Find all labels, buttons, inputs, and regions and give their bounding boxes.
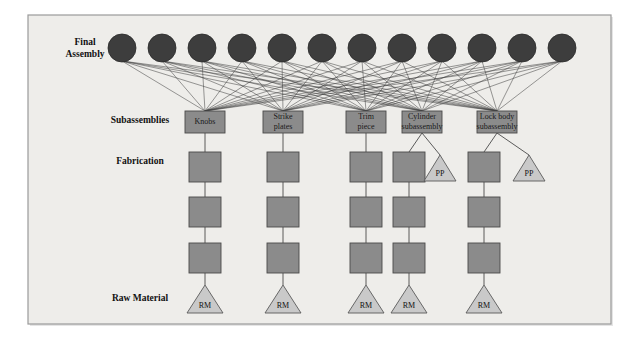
- subassembly-label: Cylinder: [408, 112, 436, 121]
- final-assembly-node[interactable]: [388, 34, 416, 62]
- final-assembly-node[interactable]: [428, 34, 456, 62]
- fabrication-node[interactable]: [189, 243, 221, 273]
- row-label-final-assembly: Final: [74, 37, 95, 47]
- fabrication-node[interactable]: [468, 152, 500, 182]
- fabrication-node[interactable]: [267, 197, 299, 227]
- subassembly-label: Trim: [358, 112, 374, 121]
- fabrication-node[interactable]: [267, 243, 299, 273]
- subassembly-label: subassembly: [477, 122, 518, 131]
- subassembly-label: Strike: [273, 112, 293, 121]
- final-assembly-node[interactable]: [188, 34, 216, 62]
- fabrication-node[interactable]: [189, 197, 221, 227]
- row-label-subassemblies: Subassemblies: [111, 115, 170, 125]
- purchased-part-label: PP: [436, 169, 445, 178]
- fabrication-node[interactable]: [350, 152, 382, 182]
- final-assembly-node[interactable]: [468, 34, 496, 62]
- purchased-part-label: PP: [525, 169, 534, 178]
- raw-material-label: RM: [277, 301, 289, 310]
- subassembly-label: Lock body: [480, 112, 514, 121]
- diagram-canvas: PPPPKnobsStrikeplatesTrimpieceCylindersu…: [0, 0, 638, 342]
- final-assembly-node[interactable]: [148, 34, 176, 62]
- row-label-raw-material: Raw Material: [112, 293, 169, 303]
- fabrication-node[interactable]: [393, 152, 425, 182]
- raw-material-label: RM: [199, 301, 211, 310]
- final-assembly-node[interactable]: [108, 34, 136, 62]
- final-assembly-node[interactable]: [548, 34, 576, 62]
- subassembly-label: Knobs: [195, 117, 216, 126]
- fabrication-node[interactable]: [468, 243, 500, 273]
- subassembly-label: plates: [274, 122, 293, 131]
- row-label-fabrication: Fabrication: [116, 156, 164, 166]
- subassembly-label: subassembly: [402, 122, 443, 131]
- supply-chain-diagram: PPPPKnobsStrikeplatesTrimpieceCylindersu…: [0, 0, 638, 342]
- subassembly-label: piece: [358, 122, 375, 131]
- fabrication-node[interactable]: [393, 243, 425, 273]
- fabrication-node[interactable]: [189, 152, 221, 182]
- fabrication-node[interactable]: [267, 152, 299, 182]
- raw-material-label: RM: [478, 301, 490, 310]
- final-assembly-node[interactable]: [308, 34, 336, 62]
- final-assembly-node[interactable]: [228, 34, 256, 62]
- final-assembly-node[interactable]: [508, 34, 536, 62]
- row-label-final-assembly: Assembly: [65, 49, 104, 59]
- fabrication-node[interactable]: [393, 197, 425, 227]
- final-assembly-node[interactable]: [268, 34, 296, 62]
- fabrication-node[interactable]: [350, 243, 382, 273]
- raw-material-label: RM: [403, 301, 415, 310]
- fabrication-node[interactable]: [468, 197, 500, 227]
- raw-material-label: RM: [360, 301, 372, 310]
- fabrication-node[interactable]: [350, 197, 382, 227]
- final-assembly-node[interactable]: [348, 34, 376, 62]
